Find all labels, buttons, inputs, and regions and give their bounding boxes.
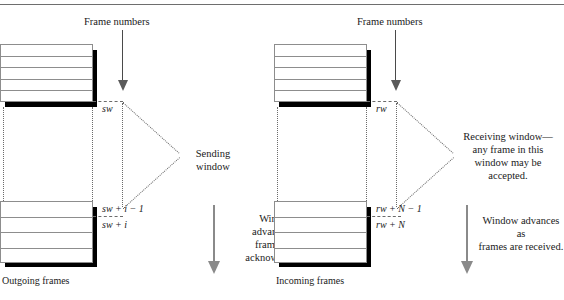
right-frame-numbers-label: Frame numbers [357,16,423,28]
frame-row [275,45,366,57]
left-window-name: Sending window [168,147,258,173]
left-window-name-line2: window [168,160,258,173]
right-rw-tick [367,101,397,102]
right-stack-gap-guide-right [366,107,367,203]
left-advance-arrow-shaft [213,205,215,263]
frame-row [1,249,92,265]
frame-row [1,202,92,218]
frame-row [1,68,92,80]
frame-row [1,45,92,57]
frame-row [1,218,92,234]
left-sw-label: sw [102,103,113,115]
left-sw-i-minus-1-label: sw + i − 1 [102,203,144,215]
right-stack-gap-guide-left [277,107,278,203]
frame-row [1,80,92,92]
right-window-funnel-upper-diagonal [396,102,453,154]
left-advance-arrow-head [208,261,220,274]
right-advance-arrow-shaft [466,205,468,263]
frame-row [275,68,366,80]
left-bottom-frame-stack [0,201,93,263]
left-window-funnel-vertical [122,103,123,207]
frame-row [1,57,92,69]
right-window-note: Receiving window— any frame in this wind… [452,130,564,182]
right-rw-n-tick [367,216,401,217]
right-advance-note-line2: frames are received. [478,240,564,253]
left-header-arrow-shaft [122,30,123,81]
frame-row [1,91,92,103]
right-window-funnel-lower-diagonal [397,157,454,209]
right-window-note-line3: window may be [452,156,564,169]
right-advance-note: Window advances as frames are received. [478,214,564,253]
left-stack-gap-guide-right [92,107,93,203]
right-header-arrow-head [391,80,401,91]
left-header-arrow-head [118,80,128,91]
diagram-canvas: Frame numbers sw Sending window sw + i −… [0,0,564,300]
left-sw-tick [93,101,123,102]
left-caption: Outgoing frames [2,275,70,286]
frame-row [275,249,366,265]
frame-row [1,233,92,249]
left-frame-numbers-label: Frame numbers [84,16,150,28]
right-window-note-line1: Receiving window— [452,130,564,143]
right-advance-note-line1: Window advances as [478,214,564,240]
left-sw-i-tick [93,216,123,217]
left-sw-i-label: sw + i [102,219,127,231]
frame-row [275,80,366,92]
left-stack-gap-guide-left [3,107,4,203]
right-bottom-frame-stack [274,201,367,263]
frame-row [275,233,366,249]
right-top-frame-stack [274,44,367,102]
right-advance-arrow-head [461,261,473,274]
left-window-funnel-upper-diagonal [122,102,179,154]
frame-row [275,57,366,69]
frame-row [275,202,366,218]
right-rw-n-minus-1-label: rw + N − 1 [376,203,422,215]
page-top-rule [0,4,564,5]
right-window-note-line4: accepted. [452,169,564,182]
right-rw-label: rw [376,103,387,115]
right-header-arrow-shaft [395,30,396,81]
left-window-name-line1: Sending [168,147,258,160]
left-top-frame-stack [0,44,93,102]
frame-row [275,218,366,234]
right-window-funnel-vertical [396,103,397,207]
frame-row [275,91,366,103]
right-caption: Incoming frames [276,275,344,286]
right-rw-n-label: rw + N [376,219,405,231]
right-window-note-line2: any frame in this [452,143,564,156]
